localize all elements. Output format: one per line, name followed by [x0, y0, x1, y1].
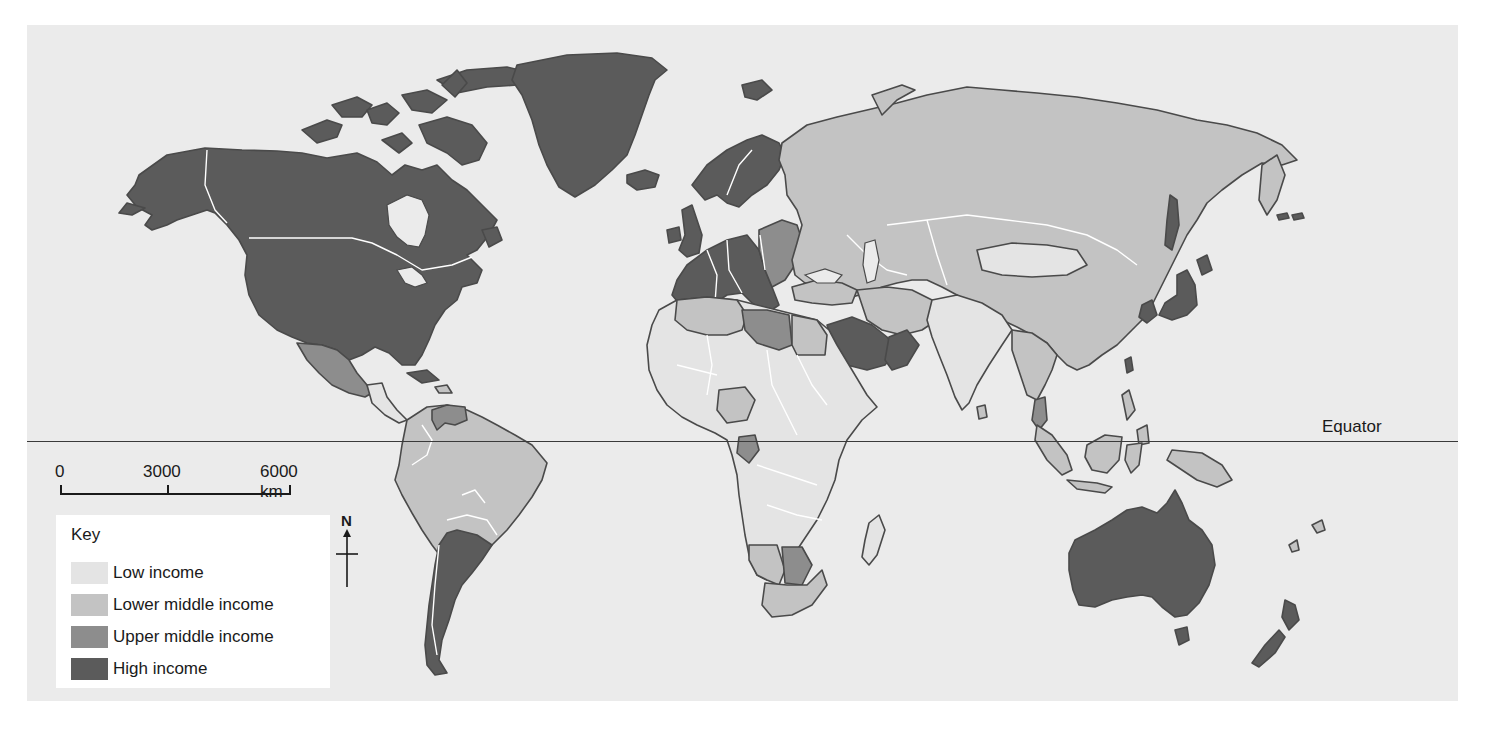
- map-panel: Equator 0 3000 6000 km Key Low income Lo…: [27, 25, 1458, 701]
- key-item-upper-middle-income: Upper middle income: [71, 625, 274, 649]
- scale-label-3000: 3000: [143, 462, 181, 482]
- key-item-high-income: High income: [71, 657, 208, 681]
- scale-tick-mid: [167, 485, 169, 493]
- north-america: [119, 67, 532, 365]
- oceania: [1069, 490, 1325, 667]
- scale-bar: 0 3000 6000 km: [55, 462, 320, 502]
- southeast-asia: [1012, 330, 1232, 493]
- equator-line: [27, 441, 1458, 442]
- key-item-low-income: Low income: [71, 561, 204, 585]
- map-key: Key Low income Lower middle income Upper…: [56, 515, 330, 688]
- iceland: [627, 170, 659, 190]
- south-america: [395, 405, 547, 675]
- north-arrow-icon: [332, 529, 362, 589]
- equator-label: Equator: [1322, 417, 1382, 437]
- key-item-lower-middle-income: Lower middle income: [71, 593, 274, 617]
- scale-label-0: 0: [55, 462, 64, 482]
- key-title: Key: [71, 525, 100, 545]
- swatch-upper-middle-income: [71, 626, 108, 648]
- new-zealand: [1282, 600, 1299, 630]
- scale-line: [60, 485, 291, 495]
- north-label: N: [341, 512, 352, 529]
- swatch-high-income: [71, 658, 108, 680]
- compass: N: [332, 512, 362, 587]
- swatch-low-income: [71, 562, 108, 584]
- swatch-lower-middle-income: [71, 594, 108, 616]
- scale-label-6000: 6000 km: [260, 462, 320, 502]
- australia: [1069, 490, 1215, 617]
